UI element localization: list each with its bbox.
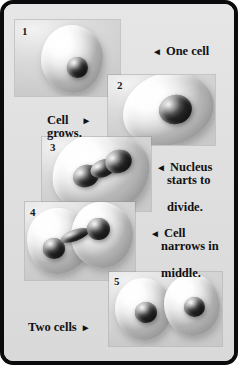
panel-1: 1 — [15, 20, 120, 96]
top-caption-fragment — [18, 0, 224, 6]
cell-5-left-nucleus — [135, 302, 157, 323]
label-cell-narrows-line1: Cell — [164, 226, 186, 240]
panel-3-number: 3 — [50, 142, 56, 153]
cell-3 — [52, 137, 150, 211]
figure-frame: 1 2 3 — [0, 0, 238, 365]
panel-5-number: 5 — [114, 276, 120, 287]
cell-1-nucleus — [67, 57, 88, 78]
label-cell-grows-line1: Cell — [47, 113, 69, 127]
arrow-right-icon-cell-grows: ► — [82, 114, 92, 128]
label-nucleus-line1: Nucleus — [170, 160, 212, 174]
arrow-right-icon-two-cells: ► — [81, 321, 91, 335]
label-two-cells-text: Two cells — [28, 320, 77, 334]
label-two-cells: Two cells► — [28, 307, 124, 334]
label-cell-narrows: ◄Cell narrows in middle. — [150, 213, 238, 294]
arrow-left-icon-nucleus: ◄ — [156, 161, 166, 175]
panel-2-number: 2 — [117, 80, 123, 91]
cell-1 — [41, 25, 103, 93]
label-nucleus-line2: starts to — [156, 174, 238, 188]
label-cell-narrows-line2: narrows in — [150, 240, 238, 254]
panel-3: 3 — [42, 137, 151, 211]
panel-4-number: 4 — [30, 207, 36, 218]
arrow-left-icon-one-cell: ◄ — [152, 45, 162, 59]
label-one-cell: ◄One cell — [152, 31, 238, 58]
cell-2 — [122, 75, 214, 145]
panel-2: 2 — [108, 75, 215, 145]
arrow-left-icon-cell-narrows: ◄ — [150, 227, 160, 241]
cell-4-nucleus-right — [87, 218, 110, 240]
label-cell-grows: Cell►grows. — [47, 100, 119, 141]
label-cell-grows-line2: grows. — [47, 126, 82, 140]
cell-5-right-nucleus — [184, 297, 205, 317]
panel-4: 4 — [25, 202, 135, 280]
figure-stage: 1 2 3 — [4, 4, 234, 361]
panel-1-number: 1 — [22, 26, 28, 37]
label-cell-narrows-line3: middle. — [150, 267, 238, 281]
label-one-cell-text: One cell — [166, 44, 209, 58]
cell-4 — [27, 202, 133, 280]
